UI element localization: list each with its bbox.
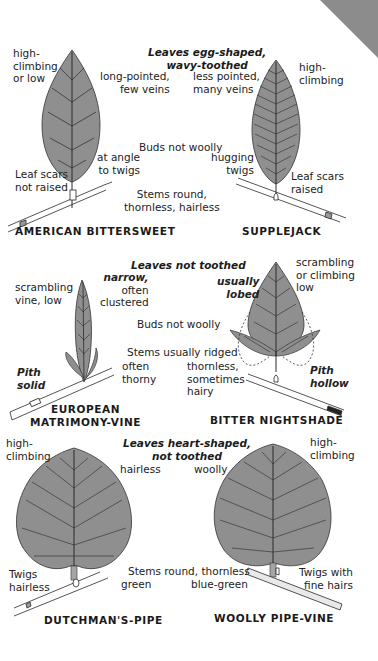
plant-illustrations — [0, 0, 378, 661]
bitter-nightshade-habit: scrambling or climbing low — [296, 256, 355, 294]
field-guide-page: Leaves egg-shaped, wavy-toothed high- cl… — [0, 0, 378, 661]
woolly-pipe-vine-leaf-note: woolly — [194, 463, 227, 476]
bitter-nightshade-pith: Pith hollow — [310, 364, 349, 389]
section2-header: Leaves not toothed — [131, 259, 246, 272]
species-name-european-matrimony-vine: EUROPEAN MATRIMONY-VINE — [30, 403, 141, 429]
american-bittersweet-habit: high- climbing or low — [13, 47, 58, 85]
section1-header: Leaves egg-shaped, wavy-toothed — [148, 46, 266, 71]
section3-stems-note: Stems round, thornless — [128, 565, 250, 578]
section3-header: Leaves heart-shaped, not toothed — [123, 437, 251, 462]
species-name-supplejack: SUPPLEJACK — [242, 225, 321, 238]
bitter-nightshade-leaf-note: usually lobed — [217, 275, 259, 300]
species-name-american-bittersweet: AMERICAN BITTERSWEET — [15, 225, 175, 238]
section2-stems-note: Stems usually ridged — [127, 346, 238, 359]
dutchmans-pipe-habit: high- climbing — [6, 437, 51, 462]
dutchmans-pipe-twigs: Twigs hairless — [9, 568, 50, 593]
dutchmans-pipe-leaf-note: hairless — [120, 463, 161, 476]
supplejack-leaf-note: less pointed, many veins — [193, 70, 260, 95]
bitter-nightshade-stem-note: thornless, sometimes hairy — [187, 360, 245, 398]
species-name-woolly-pipe-vine: WOOLLY PIPE-VINE — [214, 612, 334, 625]
species-name-dutchmans-pipe: DUTCHMAN'S-PIPE — [44, 614, 163, 627]
woolly-pipe-vine-stem-note: blue-green — [191, 578, 248, 591]
supplejack-habit: high- climbing — [299, 61, 344, 86]
section2-buds-note: Buds not woolly — [137, 318, 220, 331]
woolly-pipe-vine-twigs: Twigs with fine hairs — [299, 566, 353, 591]
matrimony-vine-pith: Pith solid — [17, 366, 45, 391]
supplejack-buds: hugging twigs — [211, 151, 254, 176]
woolly-pipe-vine-habit: high- climbing — [310, 436, 355, 461]
american-bittersweet-scars: Leaf scars not raised — [15, 168, 68, 193]
supplejack-scars: Leaf scars raised — [291, 170, 344, 195]
species-name-bitter-nightshade: BITTER NIGHTSHADE — [210, 414, 343, 427]
dutchmans-pipe-stem-note: green — [121, 578, 151, 591]
matrimony-vine-habit: scrambling vine, low — [15, 281, 73, 306]
section1-buds-note: Buds not woolly — [139, 141, 222, 154]
matrimony-vine-leaf-note: narrow, often clustered — [100, 271, 149, 309]
matrimony-vine-stem-note: often thorny — [122, 360, 156, 385]
section1-stems-note: Stems round, thornless, hairless — [124, 188, 220, 213]
american-bittersweet-buds: at angle to twigs — [97, 151, 140, 176]
american-bittersweet-leaf-note: long-pointed, few veins — [100, 70, 170, 95]
